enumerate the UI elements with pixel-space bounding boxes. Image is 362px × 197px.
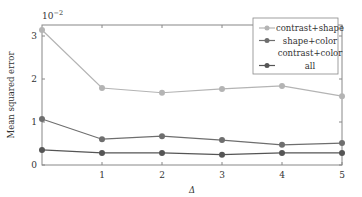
x-tick-label: 4 [279, 170, 285, 180]
y-axis-label: Mean squared error [6, 51, 16, 139]
y-tick-label: 2 [31, 74, 37, 84]
y-scale-label: 10−2 [42, 9, 63, 21]
x-tick-label: 1 [99, 170, 105, 180]
svg-text:contrast+color: contrast+color [278, 48, 344, 58]
svg-text:shape+color: shape+color [283, 36, 338, 46]
series-all [39, 147, 345, 158]
x-tick-label: 2 [159, 170, 165, 180]
legend: contrast+shapeshape+colorcontrast+colora… [253, 18, 344, 74]
svg-text:contrast+shape: contrast+shape [276, 23, 344, 33]
svg-text:all: all [305, 61, 316, 71]
line-chart: 01231234510−2ΔMean squared error contras… [0, 0, 362, 197]
x-tick-label: 3 [219, 170, 225, 180]
series-shape-color [39, 116, 345, 148]
y-tick-label: 3 [31, 31, 37, 41]
y-tick-label: 1 [31, 117, 37, 127]
x-tick-label: 5 [339, 170, 345, 180]
y-tick-label: 0 [31, 160, 37, 170]
x-axis-label: Δ [188, 185, 195, 195]
